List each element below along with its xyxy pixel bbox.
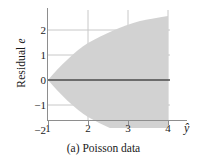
figure-caption: (a) Poisson data — [0, 142, 207, 154]
x-tick-label: 1 — [37, 123, 59, 134]
y-axis-spine — [47, 8, 48, 121]
y-tick-label: 1 — [30, 50, 46, 61]
y-axis-label-text: Residual — [15, 44, 27, 88]
poisson-residual-figure: Residual e 2 1 0 −1 −2 — [0, 0, 207, 166]
x-tick-label: 4 — [157, 123, 179, 134]
x-tick-label: 3 — [117, 123, 139, 134]
y-tick-label: 2 — [30, 25, 46, 36]
y-axis-label-symbol: e — [15, 38, 27, 43]
residual-plot-svg — [48, 10, 178, 128]
y-tick-label: 0 — [30, 75, 46, 86]
plot-area — [48, 10, 170, 120]
residual-envelope-band — [48, 16, 168, 128]
y-tick-label: −1 — [30, 100, 46, 111]
x-tick-label: 2 — [77, 123, 99, 134]
x-tick-label-group: 1 2 3 4 — [0, 123, 207, 137]
x-axis-label: ŷ — [184, 121, 189, 136]
y-axis-label: Residual e — [15, 11, 27, 115]
